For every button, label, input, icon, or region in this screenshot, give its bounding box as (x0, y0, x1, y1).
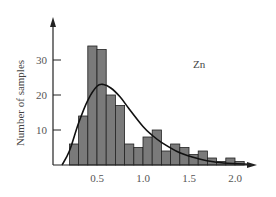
y-tick-label: 30 (36, 54, 48, 66)
x-ticks: 0.51.01.52.0 (90, 172, 242, 184)
histogram-bars (69, 46, 244, 165)
histogram-bar (171, 144, 180, 165)
x-tick-label: 1.0 (136, 172, 150, 184)
histogram-bar (134, 148, 143, 166)
histogram-bar (115, 106, 124, 166)
histogram-bar (97, 50, 106, 166)
y-tick-label: 20 (36, 89, 48, 101)
x-tick-label: 0.5 (90, 172, 104, 184)
histogram-bar (161, 151, 170, 165)
histogram-chart: 102030 0.51.01.52.0 Number of samples Zn (0, 0, 276, 197)
y-axis-arrow-icon (50, 17, 56, 27)
histogram-bar (125, 144, 134, 165)
x-tick-label: 1.5 (182, 172, 196, 184)
histogram-bar (106, 95, 115, 165)
histogram-bar (79, 116, 88, 165)
histogram-bar (198, 151, 207, 165)
y-ticks: 102030 (36, 54, 61, 136)
x-axis-arrow-icon (247, 162, 257, 168)
histogram-bar (88, 46, 97, 165)
x-tick-label: 2.0 (228, 172, 242, 184)
histogram-bar (152, 130, 161, 165)
histogram-bar (143, 137, 152, 165)
y-axis-title: Number of samples (14, 60, 26, 146)
element-annotation: Zn (193, 58, 206, 70)
y-tick-label: 10 (36, 124, 48, 136)
